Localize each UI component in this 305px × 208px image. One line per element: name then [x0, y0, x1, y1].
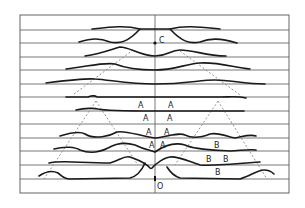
label-a: A	[143, 114, 149, 123]
label-b: B	[223, 155, 229, 164]
label-a: A	[160, 141, 166, 150]
label-a: A	[146, 128, 152, 137]
label-a: A	[168, 101, 174, 110]
label-a: A	[149, 141, 155, 150]
label-b: B	[215, 168, 221, 177]
label-a: A	[167, 114, 173, 123]
label-b: B	[214, 141, 220, 150]
label-a: A	[164, 128, 170, 137]
label-o: O	[157, 182, 163, 191]
label-b: B	[206, 155, 212, 164]
label-c: C	[159, 36, 165, 45]
label-a: A	[138, 101, 144, 110]
diagram-labels: C O A A A A A A A A B B B B	[0, 0, 305, 208]
